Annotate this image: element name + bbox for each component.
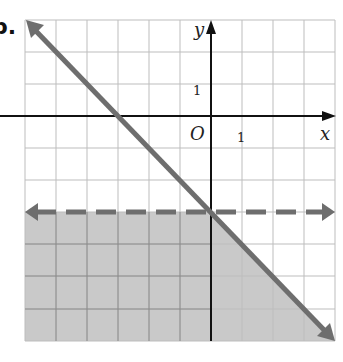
y-axis-label: y — [193, 19, 205, 40]
origin-label: O — [190, 123, 205, 144]
graph: y x O 1 1 — [0, 0, 343, 362]
y-tick-1: 1 — [193, 83, 201, 98]
y-axis-arrow-icon — [206, 20, 216, 34]
x-tick-1: 1 — [237, 130, 245, 145]
dashed-right-arrow-icon — [322, 203, 335, 221]
x-axis-label: x — [320, 123, 330, 144]
x-axis-arrow-icon — [322, 111, 336, 121]
